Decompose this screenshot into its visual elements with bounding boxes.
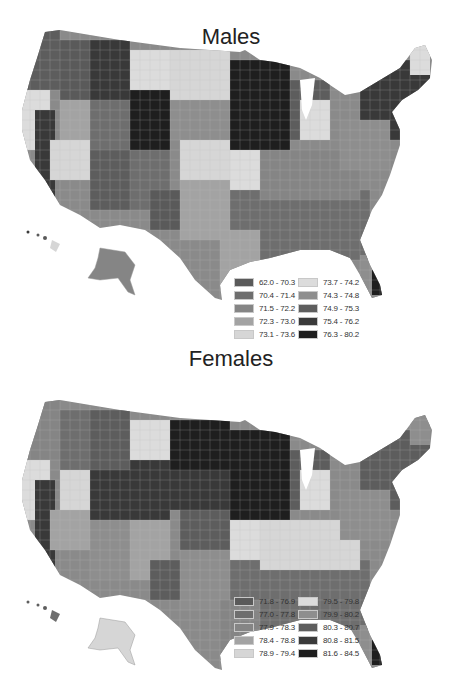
- legend-item: 77.0 - 77.8: [234, 610, 298, 619]
- legend-swatch: [298, 278, 318, 287]
- legend-label: 71.5 - 72.2: [259, 304, 295, 313]
- legend-label: 74.9 - 75.3: [323, 304, 359, 313]
- legend-label: 80.3 - 80.7: [323, 623, 359, 632]
- legend-label: 78.4 - 78.8: [259, 636, 295, 645]
- legend-label: 73.1 - 73.6: [259, 330, 295, 339]
- legend-label: 75.4 - 76.2: [323, 317, 359, 326]
- legend-swatch: [234, 623, 254, 632]
- legend-item: 71.5 - 72.2: [234, 304, 298, 313]
- legend-item: 74.3 - 74.8: [298, 291, 362, 300]
- legend-swatch: [298, 636, 318, 645]
- legend-swatch: [298, 649, 318, 658]
- legend-item: 73.1 - 73.6: [234, 330, 298, 339]
- legend-swatch: [298, 610, 318, 619]
- legend-swatch: [298, 291, 318, 300]
- males-legend: 62.0 - 70.3 73.7 - 74.2 70.4 - 71.4 74.3…: [234, 278, 362, 339]
- legend-swatch: [234, 304, 254, 313]
- legend-item: 73.7 - 74.2: [298, 278, 362, 287]
- legend-item: 76.3 - 80.2: [298, 330, 362, 339]
- legend-label: 76.3 - 80.2: [323, 330, 359, 339]
- legend-item: 78.4 - 78.8: [234, 636, 298, 645]
- legend-item: 72.3 - 73.0: [234, 317, 298, 326]
- legend-item: 62.0 - 70.3: [234, 278, 298, 287]
- legend-item: 81.6 - 84.5: [298, 649, 362, 658]
- legend-label: 77.0 - 77.8: [259, 610, 295, 619]
- legend-item: 80.8 - 81.5: [298, 636, 362, 645]
- legend-swatch: [234, 649, 254, 658]
- legend-swatch: [234, 636, 254, 645]
- legend-swatch: [234, 597, 254, 606]
- legend-swatch: [234, 278, 254, 287]
- legend-label: 79.5 - 79.8: [323, 597, 359, 606]
- legend-item: 80.3 - 80.7: [298, 623, 362, 632]
- legend-item: 77.9 - 78.3: [234, 623, 298, 632]
- legend-label: 77.9 - 78.3: [259, 623, 295, 632]
- legend-label: 71.8 - 76.9: [259, 597, 295, 606]
- females-us-map: [0, 345, 462, 681]
- legend-swatch: [298, 304, 318, 313]
- legend-item: 79.9 - 80.2: [298, 610, 362, 619]
- legend-label: 81.6 - 84.5: [323, 649, 359, 658]
- males-us-map: [0, 0, 462, 345]
- legend-item: 75.4 - 76.2: [298, 317, 362, 326]
- males-map-panel: Males: [0, 0, 462, 345]
- females-legend: 71.8 - 76.9 79.5 - 79.8 77.0 - 77.8 79.9…: [234, 597, 362, 658]
- legend-label: 62.0 - 70.3: [259, 278, 295, 287]
- legend-swatch: [298, 623, 318, 632]
- legend-label: 73.7 - 74.2: [323, 278, 359, 287]
- legend-label: 80.8 - 81.5: [323, 636, 359, 645]
- legend-swatch: [298, 597, 318, 606]
- legend-item: 70.4 - 71.4: [234, 291, 298, 300]
- alaska: [88, 248, 135, 295]
- legend-label: 70.4 - 71.4: [259, 291, 295, 300]
- legend-label: 79.9 - 80.2: [323, 610, 359, 619]
- alaska: [88, 618, 135, 665]
- legend-item: 78.9 - 79.4: [234, 649, 298, 658]
- legend-swatch: [234, 610, 254, 619]
- legend-label: 78.9 - 79.4: [259, 649, 295, 658]
- legend-swatch: [298, 317, 318, 326]
- legend-label: 74.3 - 74.8: [323, 291, 359, 300]
- legend-swatch: [234, 291, 254, 300]
- legend-swatch: [234, 330, 254, 339]
- legend-swatch: [234, 317, 254, 326]
- legend-item: 71.8 - 76.9: [234, 597, 298, 606]
- legend-label: 72.3 - 73.0: [259, 317, 295, 326]
- legend-item: 79.5 - 79.8: [298, 597, 362, 606]
- females-map-panel: Females: [0, 345, 462, 681]
- legend-swatch: [298, 330, 318, 339]
- legend-item: 74.9 - 75.3: [298, 304, 362, 313]
